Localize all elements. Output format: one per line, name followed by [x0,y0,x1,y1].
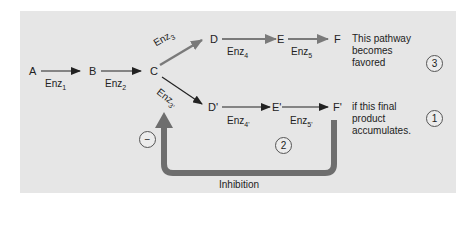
node-f-prime: F' [333,102,342,113]
node-a: A [29,66,36,77]
enzyme-4-label: Enz4 [227,47,248,59]
enzyme-5-label: Enz5 [291,47,312,59]
enzyme-1-label: Enz1 [45,79,66,91]
accumulates-note: if this final product accumulates. [352,101,411,137]
note-line: if this final [352,101,411,113]
enzyme-4-prime-label: Enz4' [227,116,249,128]
node-d: D [210,34,218,45]
node-f: F [334,34,341,45]
node-d-prime: D' [208,102,218,113]
node-e-prime: E' [272,102,281,113]
note-line: favored [352,57,411,69]
note-line: This pathway [352,33,411,45]
node-c: C [150,66,158,77]
node-b: B [89,66,96,77]
note-line: product [352,113,411,125]
step-3-badge: 3 [426,55,443,72]
node-e: E [277,34,284,45]
note-line: becomes [352,45,411,57]
enzyme-2-label: Enz2 [105,79,126,91]
inhibition-label: Inhibition [219,180,259,190]
enzyme-5-prime-label: Enz5' [290,116,312,128]
step-1-badge: 1 [426,110,443,127]
minus-inhibition-badge: − [139,131,156,148]
step-2-badge: 2 [275,137,292,154]
feedback-arrowhead [155,112,173,128]
favored-pathway-note: This pathway becomes favored [352,33,411,69]
note-line: accumulates. [352,125,411,137]
